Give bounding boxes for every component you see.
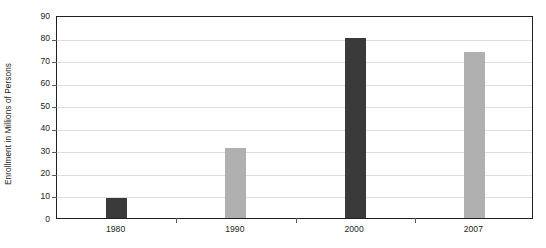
y-axis-title: Enrollment in Millions of Persons [0, 0, 16, 248]
gridline-20 [57, 175, 532, 176]
bar-2000 [345, 38, 366, 218]
x-tick-mark-1 [296, 218, 297, 223]
y-tick-mark-70 [52, 62, 57, 63]
gridline-40 [57, 130, 532, 131]
y-tick-label-40: 40 [28, 124, 50, 133]
bar-2007 [464, 52, 485, 218]
gridline-80 [57, 40, 532, 41]
plot-area [56, 16, 533, 219]
y-tick-mark-30 [52, 152, 57, 153]
x-tick-label-1980: 1980 [106, 224, 125, 234]
y-tick-mark-20 [52, 175, 57, 176]
y-axis-tick-labels: 0102030405060708090 [22, 0, 50, 248]
y-tick-label-10: 10 [28, 192, 50, 201]
y-tick-mark-10 [52, 197, 57, 198]
x-tick-label-2007: 2007 [464, 224, 483, 234]
gridline-30 [57, 152, 532, 153]
bar-chart: Enrollment in Millions of Persons 010203… [0, 0, 546, 248]
y-tick-label-0: 0 [28, 215, 50, 224]
x-tick-mark-0 [176, 218, 177, 223]
bar-1990 [225, 148, 246, 218]
x-tick-mark-2 [415, 218, 416, 223]
gridline-70 [57, 62, 532, 63]
x-tick-label-2000: 2000 [345, 224, 364, 234]
gridline-10 [57, 197, 532, 198]
y-tick-label-50: 50 [28, 102, 50, 111]
y-tick-label-70: 70 [28, 57, 50, 66]
y-tick-label-80: 80 [28, 34, 50, 43]
y-tick-mark-80 [52, 40, 57, 41]
y-tick-mark-50 [52, 107, 57, 108]
y-tick-label-30: 30 [28, 147, 50, 156]
gridline-60 [57, 85, 532, 86]
y-tick-label-90: 90 [28, 12, 50, 21]
y-tick-mark-60 [52, 85, 57, 86]
gridline-50 [57, 107, 532, 108]
bar-1980 [106, 198, 127, 218]
y-tick-mark-40 [52, 130, 57, 131]
y-tick-label-20: 20 [28, 169, 50, 178]
y-tick-label-60: 60 [28, 79, 50, 88]
x-tick-label-1990: 1990 [225, 224, 244, 234]
